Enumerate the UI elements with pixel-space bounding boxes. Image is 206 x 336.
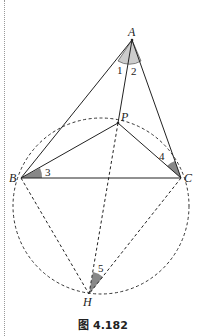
label-A: A (127, 25, 136, 39)
label-B: B (9, 171, 17, 185)
angle-label-2: 2 (131, 65, 137, 77)
label-P: P (120, 110, 129, 124)
segment-AB (21, 40, 132, 178)
geometry-figure: A P B C H 1 2 3 4 5 (0, 0, 206, 336)
segment-PH (89, 123, 118, 294)
angle-label-1: 1 (117, 64, 123, 76)
label-H: H (82, 295, 93, 309)
angle-label-3: 3 (45, 166, 51, 178)
segment-PB (21, 123, 118, 178)
segment-CH (89, 178, 181, 294)
angle-label-5: 5 (98, 262, 104, 274)
segment-BH (21, 178, 89, 294)
angle-4-shade (167, 161, 181, 178)
figure-caption: 图 4.182 (0, 316, 206, 332)
segment-AC (132, 40, 181, 178)
label-C: C (184, 171, 193, 185)
angle-label-4: 4 (159, 150, 165, 162)
